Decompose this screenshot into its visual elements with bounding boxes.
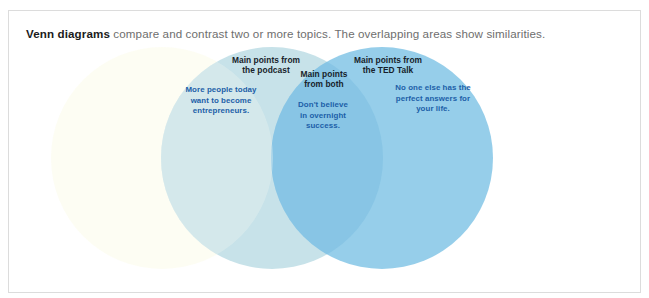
venn-label-left-line1: Main points from <box>232 55 300 65</box>
venn-label-right-line1: Main points from <box>354 55 422 65</box>
venn-text-left-line3: entrepreneurs. <box>193 106 249 115</box>
venn-label-right: Main points from the TED Talk <box>335 55 441 76</box>
venn-circles-svg <box>9 11 641 293</box>
venn-label-middle-line2: from both <box>304 79 343 89</box>
venn-text-left-line1: More people today <box>185 85 256 94</box>
venn-label-right-line2: the TED Talk <box>363 65 414 75</box>
venn-text-middle-line3: success. <box>306 121 340 130</box>
venn-text-right-line1: No one else has the <box>395 83 471 92</box>
venn-text-left-line2: want to become <box>191 96 252 105</box>
venn-label-left-line2: the podcast <box>242 65 289 75</box>
page-root: Venn diagrams compare and contrast two o… <box>0 0 649 298</box>
page-top-gutter <box>0 0 649 9</box>
venn-text-middle-line1: Don't believe <box>298 100 348 109</box>
venn-text-right: No one else has the perfect answers for … <box>377 83 489 115</box>
venn-text-middle-line2: in overnight <box>300 111 346 120</box>
content-card: Venn diagrams compare and contrast two o… <box>8 10 641 293</box>
page-bottom-gutter <box>0 294 649 298</box>
venn-text-middle: Don't believe in overnight success. <box>285 100 361 132</box>
venn-text-right-line3: your life. <box>416 104 450 113</box>
venn-diagram: Main points from the podcast Main points… <box>9 11 641 293</box>
venn-text-right-line2: perfect answers for <box>396 94 470 103</box>
venn-text-left: More people today want to become entrepr… <box>166 85 276 117</box>
